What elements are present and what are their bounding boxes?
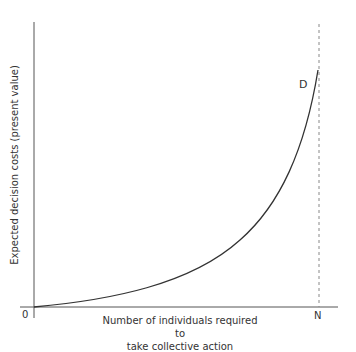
y-axis-title: Expected decision costs (present value) xyxy=(9,65,20,265)
x-axis-title: Number of individuals required to take c… xyxy=(100,314,260,352)
x-axis-title-line1: Number of individuals required to xyxy=(100,314,260,340)
decision-cost-chart xyxy=(0,0,356,352)
decision-cost-curve-d xyxy=(34,70,318,307)
origin-label: 0 xyxy=(22,309,28,320)
n-tick-label: N xyxy=(314,310,321,321)
x-axis-title-line2: take collective action xyxy=(100,340,260,352)
curve-label-d: D xyxy=(299,78,307,91)
